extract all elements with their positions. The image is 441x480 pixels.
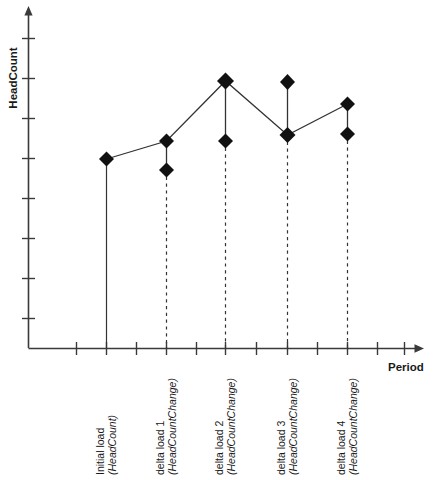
headcount-period-line-chart: HeadCount Period Initial load (HeadCount… bbox=[0, 0, 441, 480]
x-axis-title: Period bbox=[388, 361, 424, 373]
svg-text:(HeadCountChange): (HeadCountChange) bbox=[166, 378, 178, 475]
svg-text:(HeadCountChange): (HeadCountChange) bbox=[287, 378, 299, 475]
chart-background bbox=[0, 0, 441, 480]
svg-text:(HeadCountChange): (HeadCountChange) bbox=[347, 378, 359, 475]
svg-text:delta load 1: delta load 1 bbox=[154, 421, 166, 475]
svg-text:(HeadCount): (HeadCount) bbox=[106, 415, 118, 475]
svg-text:delta load 3: delta load 3 bbox=[275, 421, 287, 475]
svg-text:(HeadCountChange): (HeadCountChange) bbox=[225, 378, 237, 475]
y-axis-title: HeadCount bbox=[7, 47, 19, 109]
svg-text:delta load 4: delta load 4 bbox=[335, 421, 347, 475]
svg-text:delta load 2: delta load 2 bbox=[213, 421, 225, 475]
svg-text:Initial load: Initial load bbox=[94, 428, 106, 475]
chart-container: HeadCount Period Initial load (HeadCount… bbox=[0, 0, 441, 480]
